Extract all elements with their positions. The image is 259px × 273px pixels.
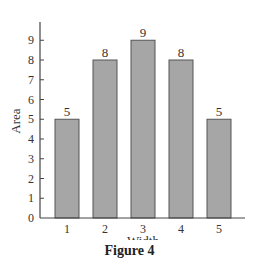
x-tick-label: 5	[216, 222, 222, 236]
y-tick-label: 2	[28, 172, 34, 186]
bar-5	[207, 119, 231, 218]
bar-value-label: 5	[216, 104, 223, 119]
y-tick-label: 0	[28, 211, 34, 225]
y-tick-label: 8	[28, 53, 34, 67]
bars-group: 58985	[55, 25, 231, 218]
bar-value-label: 8	[102, 45, 109, 60]
x-axis-label: Width	[127, 233, 159, 240]
x-tick-label: 2	[102, 222, 108, 236]
bar-value-label: 9	[140, 25, 147, 40]
y-tick-label: 4	[28, 132, 34, 146]
y-tick-label: 5	[28, 112, 34, 126]
y-tick-label: 6	[28, 93, 34, 107]
bar-value-label: 5	[64, 104, 71, 119]
bar-chart: 58985 0123456789 12345 Area Width	[0, 0, 259, 240]
bar-3	[131, 40, 155, 218]
x-tick-label: 4	[178, 222, 184, 236]
figure-caption: Figure 4	[0, 243, 259, 259]
y-tick-label: 1	[28, 191, 34, 205]
y-tick-label: 7	[28, 73, 34, 87]
y-axis-label: Area	[8, 108, 23, 133]
x-tick-label: 1	[64, 222, 70, 236]
bar-1	[55, 119, 79, 218]
bar-4	[169, 60, 193, 218]
bar-value-label: 8	[178, 45, 185, 60]
y-tick-label: 3	[28, 152, 34, 166]
bar-2	[93, 60, 117, 218]
y-axis-ticks: 0123456789	[28, 33, 44, 225]
y-tick-label: 9	[28, 33, 34, 47]
